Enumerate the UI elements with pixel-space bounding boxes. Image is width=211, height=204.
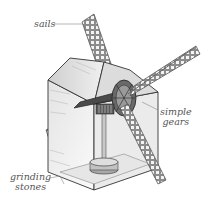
label-sails-text: sails (34, 18, 56, 29)
label-gears-line2: gears (160, 117, 192, 127)
label-grinding-stones: grinding stones (10, 172, 51, 192)
vertical-shaft (102, 108, 106, 164)
sail-right (128, 46, 200, 96)
grinding-stones (90, 158, 118, 174)
label-simple-gears: simple gears (160, 107, 192, 127)
windmill-diagram: sails simple gears grinding stones (0, 0, 211, 204)
label-sails: sails (34, 19, 56, 29)
label-stones-line2: stones (10, 182, 51, 192)
